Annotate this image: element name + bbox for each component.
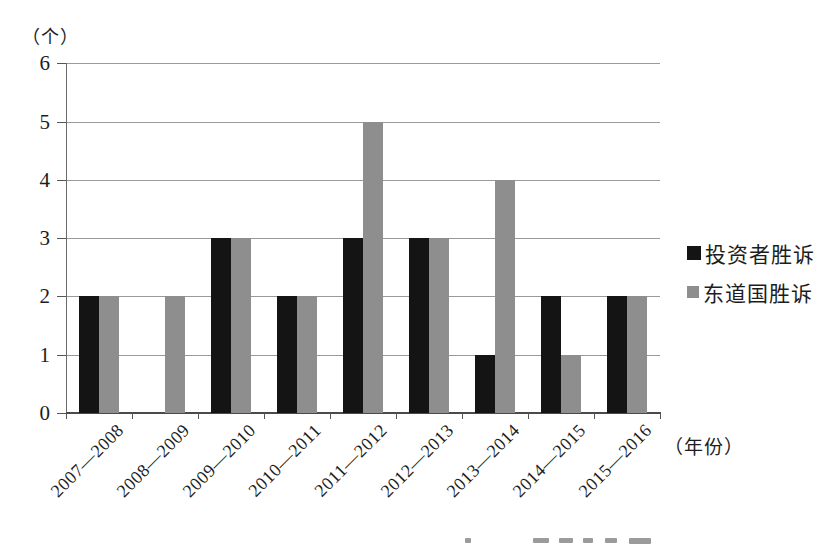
bar-investor-wins-2007—2008 xyxy=(79,296,99,413)
y-axis-line xyxy=(66,63,67,413)
y-axis-tick-1 xyxy=(57,355,66,356)
y-tick-label-5: 5 xyxy=(16,111,50,133)
legend-item-investor-wins: 投资者胜诉 xyxy=(687,241,815,265)
bar-host-state-wins-2012—2013 xyxy=(429,238,449,413)
bar-investor-wins-2009—2010 xyxy=(211,238,231,413)
bar-host-state-wins-2008—2009 xyxy=(165,296,185,413)
x-axis-tick-1 xyxy=(132,413,133,419)
bar-host-state-wins-2013—2014 xyxy=(495,180,515,413)
x-axis-tick-8 xyxy=(594,413,595,419)
gridline-6 xyxy=(66,63,660,64)
x-axis-tick-7 xyxy=(528,413,529,419)
legend-swatch-investor-wins-icon xyxy=(687,246,701,260)
y-axis-tick-2 xyxy=(57,296,66,297)
y-tick-label-2: 2 xyxy=(16,285,50,307)
y-tick-label-4: 4 xyxy=(16,169,50,191)
y-tick-label-1: 1 xyxy=(16,344,50,366)
x-axis-tick-5 xyxy=(396,413,397,419)
y-axis-tick-0 xyxy=(57,413,66,414)
bar-host-state-wins-2009—2010 xyxy=(231,238,251,413)
bar-host-state-wins-2014—2015 xyxy=(561,355,581,413)
legend-label-host-state-wins: 东道国胜诉 xyxy=(703,277,813,307)
x-axis-tick-3 xyxy=(264,413,265,419)
bar-investor-wins-2015—2016 xyxy=(607,296,627,413)
bar-host-state-wins-2010—2011 xyxy=(297,296,317,413)
y-axis-unit-label: （个） xyxy=(22,22,79,48)
bar-host-state-wins-2011—2012 xyxy=(363,122,383,414)
y-tick-label-6: 6 xyxy=(16,52,50,74)
legend-swatch-host-state-wins-icon xyxy=(687,286,699,298)
x-axis-tick-4 xyxy=(330,413,331,419)
x-axis-tick-6 xyxy=(462,413,463,419)
legend-item-host-state-wins: 东道国胜诉 xyxy=(687,280,815,304)
x-axis-unit-label: （年份） xyxy=(664,432,744,459)
y-axis-tick-3 xyxy=(57,238,66,239)
legend: 投资者胜诉 东道国胜诉 xyxy=(687,241,815,319)
x-axis-tick-2 xyxy=(198,413,199,419)
bar-host-state-wins-2007—2008 xyxy=(99,296,119,413)
y-tick-label-0: 0 xyxy=(16,402,50,424)
legend-label-investor-wins: 投资者胜诉 xyxy=(705,238,815,268)
bar-host-state-wins-2015—2016 xyxy=(627,296,647,413)
bar-investor-wins-2014—2015 xyxy=(541,296,561,413)
x-axis-tick-9 xyxy=(660,413,661,419)
y-axis-tick-6 xyxy=(57,63,66,64)
bar-investor-wins-2013—2014 xyxy=(475,355,495,413)
bar-investor-wins-2011—2012 xyxy=(343,238,363,413)
bar-chart-figure: （个） 01234562007—20082008—20092009—201020… xyxy=(0,0,838,545)
x-axis-tick-0 xyxy=(66,413,67,419)
y-axis-tick-4 xyxy=(57,180,66,181)
y-axis-tick-5 xyxy=(57,122,66,123)
y-tick-label-3: 3 xyxy=(16,227,50,249)
cropped-caption-remnant xyxy=(455,538,715,545)
bar-investor-wins-2012—2013 xyxy=(409,238,429,413)
bar-investor-wins-2010—2011 xyxy=(277,296,297,413)
